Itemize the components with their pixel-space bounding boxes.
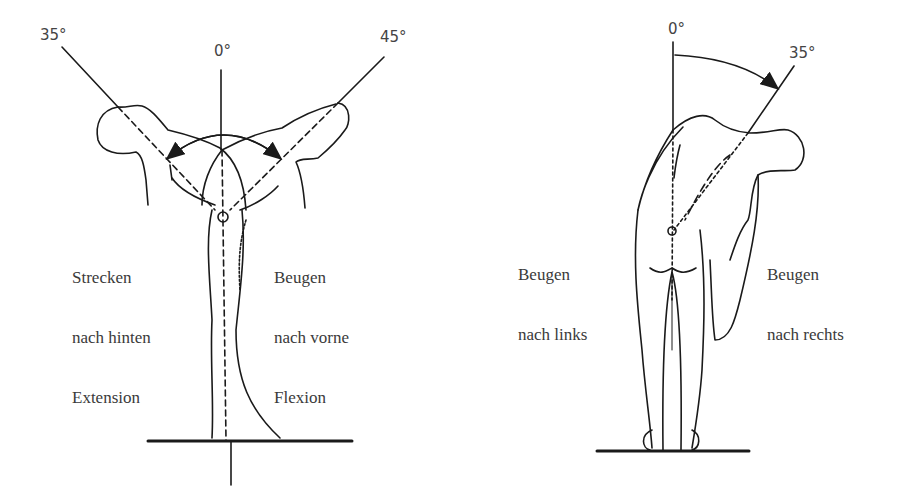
flexion-label: Beugen nach vorne Flexion bbox=[274, 228, 349, 448]
extension-label-line2: nach hinten bbox=[72, 328, 151, 348]
right-zero-angle-label: 0° bbox=[668, 20, 685, 38]
flexion-angle-label: 45° bbox=[380, 28, 407, 46]
lateral-angle-label: 35° bbox=[789, 44, 816, 62]
flexion-label-line3: Flexion bbox=[274, 388, 349, 408]
extension-label-line1: Strecken bbox=[72, 268, 151, 288]
flexion-label-line1: Beugen bbox=[274, 268, 349, 288]
extension-label-line3: Extension bbox=[72, 388, 151, 408]
bend-right-label-line2: nach rechts bbox=[767, 325, 844, 345]
extension-label: Strecken nach hinten Extension bbox=[72, 228, 151, 448]
bend-right-label: Beugen nach rechts bbox=[767, 225, 844, 385]
flexion-label-line2: nach vorne bbox=[274, 328, 349, 348]
bend-left-label: Beugen nach links bbox=[518, 225, 587, 385]
bend-left-label-line2: nach links bbox=[518, 325, 587, 345]
left-zero-angle-label: 0° bbox=[214, 42, 231, 60]
extension-angle-label: 35° bbox=[40, 26, 67, 44]
spine-range-of-motion-diagram: 35° 0° 45° Strecken nach hinten Extensio… bbox=[0, 0, 902, 503]
bend-right-label-line1: Beugen bbox=[767, 265, 844, 285]
bend-left-label-line1: Beugen bbox=[518, 265, 587, 285]
